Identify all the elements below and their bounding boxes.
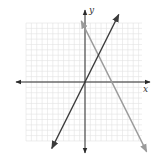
coordinate-plane: x y — [0, 0, 155, 160]
x-axis-label: x — [143, 84, 148, 94]
line-2 — [81, 21, 146, 152]
y-axis-label: y — [88, 5, 95, 15]
